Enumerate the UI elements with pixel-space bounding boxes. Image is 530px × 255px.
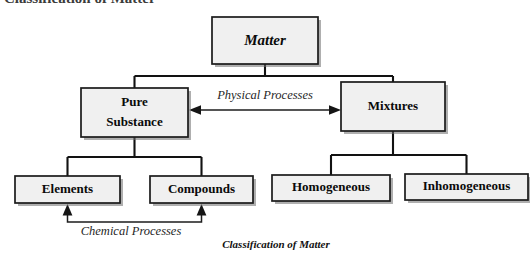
node-inhomogeneous[interactable]: Inhomogeneous	[405, 174, 530, 203]
node-inhomogeneous-label: Inhomogeneous	[423, 178, 510, 193]
node-pure-substance-label-line2: Substance	[106, 114, 163, 129]
node-pure-substance-label-line1: Pure	[121, 94, 148, 109]
physical-processes-arrowhead-right	[329, 105, 341, 115]
node-matter[interactable]: Matter	[212, 17, 321, 67]
node-matter-label: Matter	[243, 32, 286, 48]
node-compounds-label: Compounds	[168, 181, 235, 196]
chemical-processes-label: Chemical Processes	[81, 224, 182, 238]
node-homogeneous[interactable]: Homogeneous	[272, 175, 393, 204]
node-elements[interactable]: Elements	[15, 176, 123, 206]
diagram-caption: Classification of Matter	[222, 238, 330, 250]
node-compounds[interactable]: Compounds	[150, 176, 256, 206]
classification-of-matter-diagram: Classification of Matter	[0, 0, 530, 255]
node-mixtures-label: Mixtures	[368, 98, 418, 113]
node-mixtures[interactable]: Mixtures	[341, 82, 448, 134]
physical-processes-arrow	[189, 105, 341, 115]
chemical-processes-arrow	[63, 204, 207, 222]
matter-flowchart-svg: Matter Pure Substance Mixtures Elements …	[0, 0, 530, 255]
chemical-processes-bracket	[68, 215, 202, 222]
physical-processes-label: Physical Processes	[216, 88, 313, 102]
node-pure-substance[interactable]: Pure Substance	[81, 88, 191, 140]
node-elements-label: Elements	[42, 181, 93, 196]
node-homogeneous-label: Homogeneous	[292, 179, 370, 194]
